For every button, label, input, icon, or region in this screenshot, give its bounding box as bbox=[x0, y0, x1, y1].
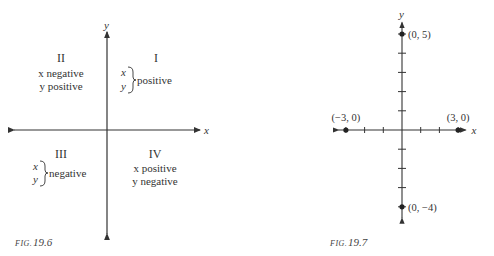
data-point bbox=[456, 127, 461, 132]
data-point-label: (3, 0) bbox=[447, 112, 470, 124]
quadrant-i-brace-text: positive bbox=[137, 74, 172, 86]
data-point-label: (0, 5) bbox=[408, 29, 431, 41]
quadrant-ii-line2: y positive bbox=[39, 80, 82, 92]
figure-19-6-caption-prefix: FIG. bbox=[14, 239, 32, 248]
data-point bbox=[343, 127, 348, 132]
figure-canvas: x y II x negative y positive I x y posit… bbox=[0, 0, 494, 256]
quadrant-i-numeral: I bbox=[154, 51, 158, 65]
data-point-label: (0, −4) bbox=[408, 202, 437, 214]
quadrant-iii-brace bbox=[40, 161, 48, 186]
quadrant-ii-numeral: II bbox=[57, 51, 65, 65]
quadrant-i-line1: x bbox=[120, 66, 126, 78]
figure-19-6-caption-number: 19.6 bbox=[33, 236, 53, 248]
figure-19-7: x y (0, 5)(−3, 0)(3, 0)(0, −4) FIG. 19.7 bbox=[329, 8, 477, 248]
quadrant-iv-line1: x positive bbox=[133, 162, 176, 174]
data-point bbox=[399, 31, 404, 36]
quadrant-iii-line2: y bbox=[32, 173, 38, 185]
quadrant-iii-numeral: III bbox=[55, 147, 67, 161]
data-point bbox=[399, 204, 404, 209]
quadrant-iii-line1: x bbox=[32, 160, 38, 172]
y-axis-label: y bbox=[398, 8, 404, 20]
quadrant-iii-brace-text: negative bbox=[49, 167, 86, 179]
figure-19-6: x y II x negative y positive I x y posit… bbox=[14, 19, 209, 248]
data-point-label: (−3, 0) bbox=[332, 112, 361, 124]
quadrant-ii-line1: x negative bbox=[38, 67, 84, 79]
quadrant-i-line2: y bbox=[120, 80, 126, 92]
quadrant-iv-numeral: IV bbox=[149, 147, 162, 161]
quadrant-i-brace bbox=[128, 67, 136, 93]
quadrant-iv-line2: y negative bbox=[132, 175, 178, 187]
x-axis-label: x bbox=[203, 124, 209, 136]
y-axis-label: y bbox=[103, 19, 109, 31]
figure-19-7-caption-number: 19.7 bbox=[348, 236, 368, 248]
x-axis-label: x bbox=[471, 124, 477, 136]
figure-19-7-caption-prefix: FIG. bbox=[329, 239, 347, 248]
